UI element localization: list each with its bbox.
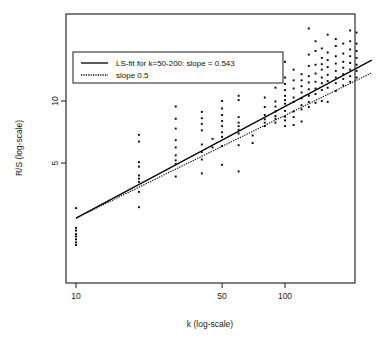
data-point xyxy=(356,32,358,34)
data-point xyxy=(335,70,337,72)
data-point xyxy=(356,50,358,52)
data-point xyxy=(284,61,286,63)
data-point xyxy=(175,176,177,178)
y-tick-label: 5 xyxy=(50,160,60,165)
data-point xyxy=(138,166,140,168)
data-point xyxy=(221,125,223,127)
data-point xyxy=(342,78,344,80)
data-point xyxy=(238,133,240,135)
data-point xyxy=(349,40,351,42)
data-point xyxy=(175,154,177,156)
data-point xyxy=(349,48,351,50)
data-point xyxy=(221,131,223,133)
data-point xyxy=(335,77,337,79)
data-point xyxy=(201,159,203,161)
data-point xyxy=(138,191,140,193)
data-point xyxy=(321,69,323,71)
data-point xyxy=(138,161,140,163)
data-point xyxy=(175,118,177,120)
data-point xyxy=(221,108,223,110)
data-point xyxy=(327,101,329,103)
data-point xyxy=(201,117,203,119)
data-point xyxy=(315,102,317,104)
data-point xyxy=(238,116,240,118)
data-point xyxy=(321,47,323,49)
data-point xyxy=(321,77,323,79)
data-point xyxy=(238,125,240,127)
data-point xyxy=(315,50,317,52)
data-point xyxy=(221,114,223,116)
data-point xyxy=(327,52,329,54)
data-point xyxy=(221,100,223,102)
data-point xyxy=(138,141,140,143)
x-tick-label: 10 xyxy=(71,291,81,301)
data-point xyxy=(138,206,140,208)
data-point xyxy=(264,122,266,124)
data-point xyxy=(175,159,177,161)
data-point xyxy=(321,89,323,91)
data-point xyxy=(327,74,329,76)
data-point xyxy=(175,128,177,130)
data-point xyxy=(349,30,351,32)
data-point xyxy=(138,181,140,183)
data-point xyxy=(301,79,303,81)
x-axis-label: k (log-scale) xyxy=(187,319,233,329)
data-point xyxy=(138,175,140,177)
data-point xyxy=(75,235,77,237)
data-point xyxy=(293,124,295,126)
data-point xyxy=(315,64,317,66)
data-point xyxy=(349,81,351,83)
data-point xyxy=(308,28,310,30)
data-point xyxy=(308,88,310,90)
data-point xyxy=(138,178,140,180)
y-tick-label: 10 xyxy=(50,96,60,106)
data-point xyxy=(293,116,295,118)
data-point xyxy=(221,164,223,166)
data-point xyxy=(356,43,358,45)
y-axis-label: R/S (log-scale) xyxy=(14,120,24,176)
data-point xyxy=(308,54,310,56)
data-point xyxy=(315,93,317,95)
data-point xyxy=(293,88,295,90)
data-point xyxy=(308,75,310,77)
data-point xyxy=(252,135,254,137)
data-point xyxy=(342,53,344,55)
chart-figure: 1050100 510 k (log-scale) R/S (log-scale… xyxy=(0,0,379,344)
data-point xyxy=(315,81,317,83)
data-point xyxy=(301,85,303,87)
data-point xyxy=(284,99,286,101)
data-point xyxy=(308,95,310,97)
data-point xyxy=(342,61,344,63)
data-point xyxy=(321,63,323,65)
data-point xyxy=(201,123,203,125)
data-point xyxy=(301,108,303,110)
scatter-plot-canvas: 1050100 510 k (log-scale) R/S (log-scale… xyxy=(0,0,379,344)
data-point xyxy=(264,97,266,99)
data-point xyxy=(274,106,276,108)
data-point xyxy=(301,92,303,94)
data-point xyxy=(308,106,310,108)
data-point xyxy=(221,136,223,138)
data-point xyxy=(212,146,214,148)
data-point xyxy=(335,45,337,47)
data-point xyxy=(284,110,286,112)
data-point xyxy=(284,119,286,121)
data-point xyxy=(238,95,240,97)
data-point xyxy=(264,118,266,120)
data-point xyxy=(301,73,303,75)
data-point xyxy=(301,104,303,106)
data-point xyxy=(342,43,344,45)
data-point xyxy=(201,172,203,174)
data-point xyxy=(175,106,177,108)
data-point xyxy=(284,77,286,79)
data-point xyxy=(301,121,303,123)
x-tick-label: 100 xyxy=(278,291,292,301)
x-tick-label: 50 xyxy=(217,291,227,301)
data-point xyxy=(356,64,358,66)
data-point xyxy=(75,230,77,232)
data-point xyxy=(75,238,77,240)
data-point xyxy=(274,115,276,117)
data-point xyxy=(315,40,317,42)
data-point xyxy=(356,57,358,59)
data-point xyxy=(284,125,286,127)
